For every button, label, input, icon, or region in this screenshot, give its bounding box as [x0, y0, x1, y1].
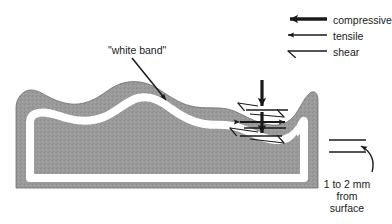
shear-arrow-1 [238, 103, 258, 106]
depth-note-line-2: from [307, 190, 387, 202]
white-band-label: "white band" [108, 44, 166, 56]
depth-note-line-3: surface [307, 202, 387, 214]
depth-note: 1 to 2 mm from surface [307, 178, 387, 214]
depth-indicator [329, 140, 373, 172]
legend-label-compressive: compressive [333, 14, 392, 26]
legend-label-shear: shear [333, 46, 359, 58]
depth-note-line-1: 1 to 2 mm [307, 178, 387, 190]
white-band-stress-diagram: compressive tensile shear "white band" 1… [0, 0, 392, 224]
legend-arrows [288, 19, 327, 51]
depth-curved-arrow [361, 146, 373, 172]
shear-arrow-2 [250, 114, 284, 117]
legend-label-tensile: tensile [333, 30, 363, 42]
